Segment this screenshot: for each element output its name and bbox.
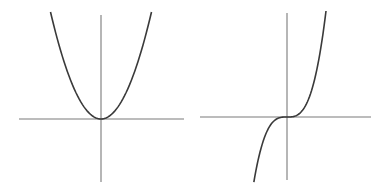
cubic-plot xyxy=(200,11,371,182)
cubic-curve xyxy=(254,11,326,182)
parabola-plot xyxy=(19,12,184,182)
function-plots xyxy=(0,0,383,189)
